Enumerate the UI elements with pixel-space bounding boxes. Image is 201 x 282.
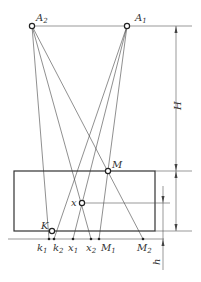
label-x: x [71,197,77,208]
ray-a2-x2 [32,26,91,239]
point-m1 [98,238,101,241]
label-a1: A1 [134,12,147,25]
projection-diagram: H h A2 A1 M x K k1 k2 x1 x2 M1 M2 [0,0,201,282]
point-x1 [72,238,75,241]
arrow-down-icon [162,196,165,203]
arrow-up-icon [175,171,178,178]
point-m [105,168,110,173]
label-m: M [111,159,123,170]
label-m1: M1 [100,242,116,255]
arrow-up-icon [175,26,178,33]
arrow-up-icon [162,239,165,246]
arrow-down-icon [175,164,178,171]
point-k2 [53,238,56,241]
ray-a1-x1 [73,26,127,239]
ray-a1-m1 [99,26,127,239]
label-a2: A2 [35,12,48,25]
point-x2 [90,238,93,241]
label-x2: x2 [86,242,97,255]
label-m2: M2 [136,242,152,255]
label-k1: k1 [37,242,48,255]
point-a2 [29,23,34,28]
point-k [49,228,54,233]
label-x1: x1 [68,242,78,255]
point-x [79,200,84,205]
point-m2 [142,238,145,241]
dimension-h-label: h [151,259,162,265]
ray-a1-k2 [54,26,127,239]
label-k: K [40,220,49,231]
label-k2: k2 [53,242,64,255]
ray-a2-k1 [32,26,49,239]
point-k1 [48,238,51,241]
arrow-down-icon [175,224,178,231]
point-a1 [124,23,129,28]
dimension-H-label: H [172,101,183,111]
ray-a2-m2 [32,26,143,239]
